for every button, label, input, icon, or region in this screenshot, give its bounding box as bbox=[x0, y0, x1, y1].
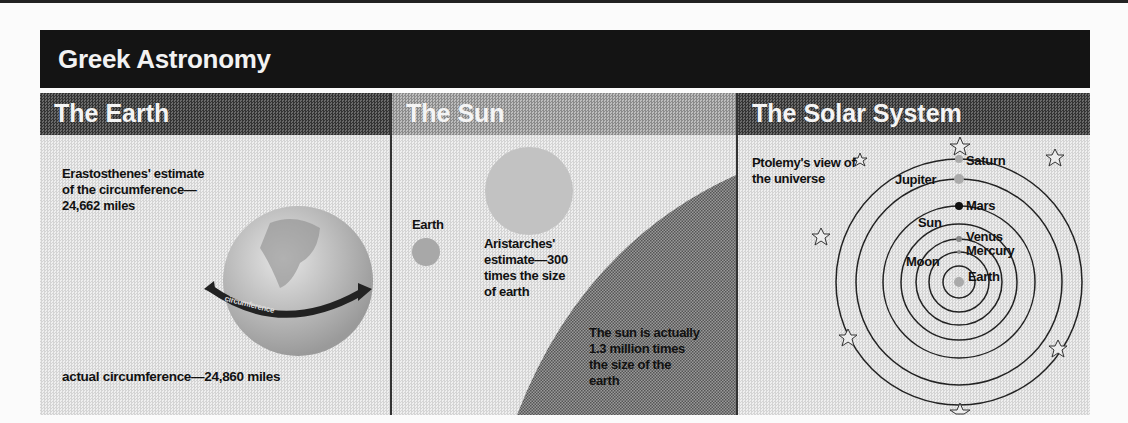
label-saturn: Saturn bbox=[966, 153, 1005, 169]
panel-solar-system-title: The Solar System bbox=[752, 99, 962, 128]
panel-earth: The Earth Erastosthenes' estimate of the… bbox=[40, 93, 391, 415]
label-mercury: Mercury bbox=[966, 243, 1014, 259]
estimated-sun-icon bbox=[485, 147, 573, 235]
diagram-title: Greek Astronomy bbox=[58, 44, 271, 75]
panel-earth-header: The Earth bbox=[40, 93, 391, 135]
panel-sun-title: The Sun bbox=[406, 99, 505, 128]
panel-solar-system: The Solar System bbox=[738, 93, 1090, 415]
planet-icons bbox=[954, 155, 964, 287]
earth-label: Earth bbox=[412, 217, 444, 233]
label-moon: Moon bbox=[906, 254, 939, 270]
label-earth: Earth bbox=[968, 269, 1000, 285]
title-bar: Greek Astronomy bbox=[40, 30, 1090, 88]
panel-earth-title: The Earth bbox=[54, 99, 169, 128]
panel-sun-header: The Sun bbox=[392, 93, 736, 135]
label-mars: Mars bbox=[966, 198, 995, 214]
panel-solar-system-header: The Solar System bbox=[738, 93, 1090, 135]
earth-icon bbox=[412, 238, 440, 266]
actual-sun-size-label: The sun is actually 1.3 million times th… bbox=[589, 325, 700, 389]
top-rule bbox=[0, 0, 1128, 3]
ptolemy-caption: Ptolemy's view of the universe bbox=[752, 155, 855, 187]
globe-icon bbox=[200, 193, 380, 363]
label-sun: Sun bbox=[918, 215, 942, 231]
aristarches-estimate-label: Aristarches' estimate—300 times the size… bbox=[484, 236, 568, 300]
estimate-label: Erastosthenes' estimate of the circumfer… bbox=[62, 166, 204, 214]
label-jupiter: Jupiter bbox=[895, 172, 936, 188]
panel-sun: The Sun Earth Aristarches' estimate—300 … bbox=[392, 93, 736, 415]
actual-circumference-label: actual circumference—24,860 miles bbox=[62, 369, 280, 385]
